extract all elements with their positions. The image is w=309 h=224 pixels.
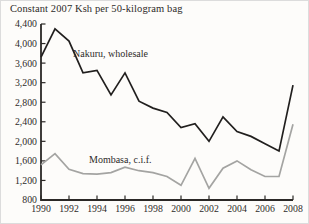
x-tick-label: 2004 [227, 203, 247, 214]
line-chart-canvas: 8001,2001,6002,0002,4002,8003,2003,6004,… [0, 0, 309, 224]
y-tick-label: 1,600 [15, 155, 37, 166]
x-tick-label: 2002 [199, 203, 219, 214]
y-tick-label: 4,400 [15, 18, 37, 29]
price-chart-figure: Constant 2007 Ksh per 50-kilogram bag 80… [0, 0, 309, 224]
x-tick-label: 1990 [31, 203, 51, 214]
x-tick-label: 1996 [115, 203, 135, 214]
y-tick-label: 2,400 [15, 116, 37, 127]
series-label-nakuru-wholesale: Nakuru, wholesale [73, 48, 148, 59]
y-tick-label: 4,000 [15, 38, 37, 49]
y-tick-label: 2,000 [15, 136, 37, 147]
x-tick-label: 2008 [283, 203, 303, 214]
series-line-mombasa [41, 124, 293, 188]
y-tick-label: 1,200 [15, 175, 37, 186]
x-tick-label: 2006 [255, 203, 275, 214]
x-tick-label: 1998 [143, 203, 163, 214]
y-tick-label: 3,200 [15, 77, 37, 88]
x-tick-label: 1994 [87, 203, 107, 214]
y-tick-label: 2,800 [15, 97, 37, 108]
y-tick-label: 3,600 [15, 58, 37, 69]
x-tick-label: 2000 [171, 203, 191, 214]
series-label-mombasa-cif: Mombasa, c.i.f. [89, 154, 152, 165]
x-tick-label: 1992 [59, 203, 79, 214]
